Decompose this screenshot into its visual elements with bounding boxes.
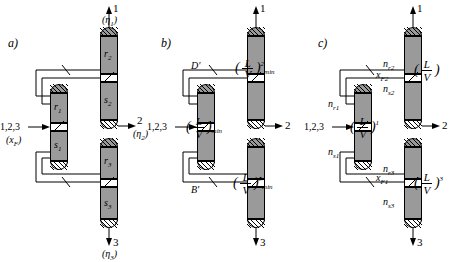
fraction-c-mid: ( L V )1 xyxy=(350,115,379,140)
product-a-1-eta: (η1) xyxy=(102,14,117,28)
panel-a: a) r2 s2 r1 s1 r3 s3 xyxy=(0,0,157,262)
feed-a-composition: (xF) xyxy=(6,134,21,148)
fraction-c-bot: ( L V )3 xyxy=(414,171,443,196)
product-c-2: 2 xyxy=(442,119,448,131)
product-a-3: 3 xyxy=(113,236,119,248)
fraction-c-top: ( L V ) xyxy=(414,58,440,83)
product-a-2-eta: (η2) xyxy=(133,128,148,142)
product-b-1: 1 xyxy=(260,2,266,14)
panel-b: b) xyxy=(157,0,314,262)
product-c-1: 1 xyxy=(417,2,423,14)
panel-c: c) xyxy=(314,0,471,262)
product-c-3: 3 xyxy=(417,236,423,248)
internal-b-distillate: D' xyxy=(191,60,200,71)
fraction-b-top: ( L V )2min xyxy=(233,58,277,79)
stage-c-ns3: ns3 xyxy=(383,196,394,210)
feed-a-label: 1,2,3 xyxy=(0,121,20,132)
product-b-2: 2 xyxy=(285,119,291,131)
composition-c-xF2: xF2 xyxy=(376,69,388,83)
feed-c-label: 1,2,3 xyxy=(304,121,324,132)
stage-c-ns2: ns2 xyxy=(383,83,394,97)
internal-b-bottoms: B' xyxy=(191,184,199,195)
panel-c-connectors xyxy=(314,0,471,262)
stage-c-ns1: ns1 xyxy=(328,146,339,160)
fraction-b-bot: ( L V )3min xyxy=(233,171,273,196)
panel-b-connectors xyxy=(157,0,314,262)
stage-c-nr1: nr1 xyxy=(328,98,339,112)
fraction-b-mid: ( L V )min xyxy=(186,115,222,140)
composition-c-xF1: xF1 xyxy=(376,172,388,186)
feed-b-label: 1,2,3 xyxy=(147,121,167,132)
figure-canvas: a) r2 s2 r1 s1 r3 s3 xyxy=(0,0,472,262)
product-b-3: 3 xyxy=(260,236,266,248)
product-a-3-eta: (η3) xyxy=(102,248,117,262)
product-a-1: 1 xyxy=(113,2,119,14)
product-a-2: 2 xyxy=(137,114,143,126)
